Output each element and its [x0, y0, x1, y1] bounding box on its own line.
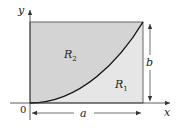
dimension-a-label: a — [80, 107, 87, 120]
diagram-canvas: y x 0 R2 R1 a b — [0, 0, 178, 129]
origin-label: 0 — [20, 104, 26, 115]
x-axis-label: x — [164, 106, 171, 119]
dimension-b-label: b — [146, 56, 153, 69]
y-axis-label: y — [17, 4, 25, 17]
